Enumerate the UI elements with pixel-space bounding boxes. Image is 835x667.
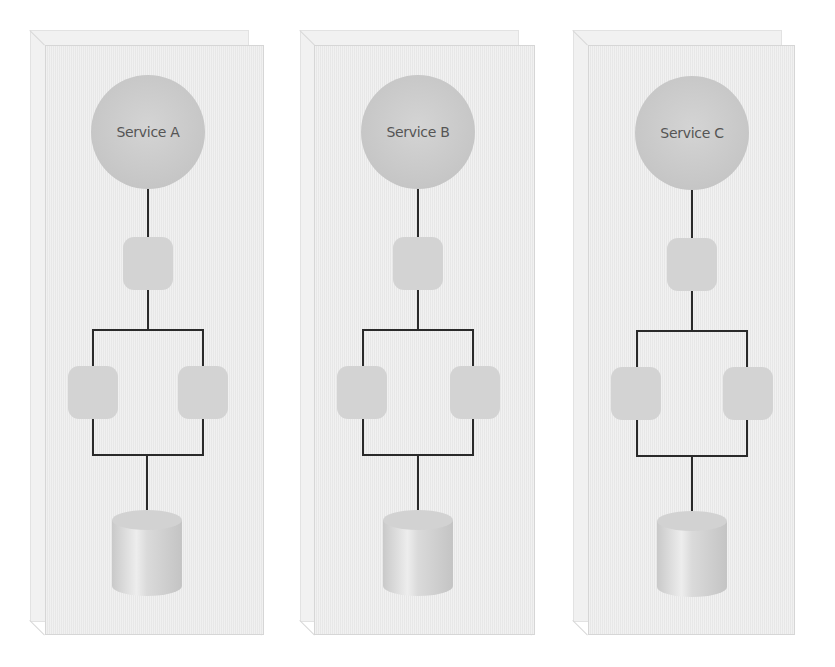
connector-line xyxy=(417,290,419,330)
panel-edge xyxy=(299,620,315,636)
connector-line xyxy=(472,419,474,456)
right-node xyxy=(450,366,500,419)
connector-line xyxy=(362,329,364,366)
connector-line xyxy=(636,330,748,332)
left-node xyxy=(337,366,387,419)
front-node xyxy=(393,237,443,290)
panel-edge xyxy=(29,620,45,636)
panel-edge xyxy=(572,620,588,636)
connector-line xyxy=(362,329,474,331)
connector-line xyxy=(147,290,149,330)
service-circle: Service A xyxy=(91,75,205,189)
connector-line xyxy=(92,419,94,456)
connector-line xyxy=(92,454,204,456)
connector-line xyxy=(691,190,693,238)
connector-line xyxy=(636,330,638,367)
connector-line xyxy=(691,291,693,331)
connector-line xyxy=(92,329,204,331)
front-node xyxy=(123,237,173,290)
database-icon xyxy=(383,510,453,596)
connector-line xyxy=(202,419,204,456)
service-panel-b: Service B xyxy=(270,0,540,667)
service-circle: Service B xyxy=(361,75,475,189)
connector-line xyxy=(202,329,204,366)
database-icon xyxy=(657,511,727,597)
service-label: Service B xyxy=(386,124,449,140)
front-node xyxy=(667,238,717,291)
service-label: Service C xyxy=(660,125,723,141)
connector-line xyxy=(472,329,474,366)
service-label: Service A xyxy=(116,124,179,140)
left-node xyxy=(68,366,118,419)
connector-line xyxy=(92,329,94,366)
connector-line xyxy=(746,420,748,457)
database-icon xyxy=(112,510,182,596)
service-circle: Service C xyxy=(635,76,749,190)
service-panel-c: Service C xyxy=(543,0,813,667)
connector-line xyxy=(362,419,364,456)
service-panel-a: Service A xyxy=(0,0,270,667)
connector-line xyxy=(746,330,748,367)
right-node xyxy=(723,367,773,420)
connector-line xyxy=(417,189,419,237)
left-node xyxy=(611,367,661,420)
connector-line xyxy=(636,420,638,457)
connector-line xyxy=(147,189,149,237)
right-node xyxy=(178,366,228,419)
